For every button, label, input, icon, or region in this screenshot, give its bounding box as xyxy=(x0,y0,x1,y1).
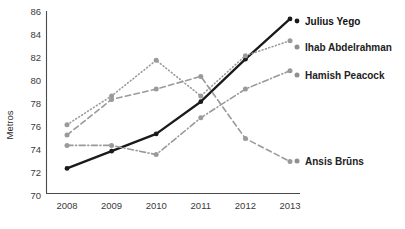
data-point xyxy=(288,159,293,164)
legend-label: Ihab Abdelrahman xyxy=(305,42,392,53)
data-series-group xyxy=(65,17,293,171)
data-point xyxy=(288,17,293,22)
data-point xyxy=(243,136,248,141)
y-axis-title: Metros xyxy=(4,110,15,139)
chart-canvas: Metros 868482807876747270 20082009201020… xyxy=(0,0,405,229)
data-point xyxy=(109,143,114,148)
series-hamish-peacock xyxy=(65,68,293,157)
y-tick-label: 80 xyxy=(30,75,41,86)
legend-marker-icon xyxy=(295,19,300,24)
x-tick-label: 2011 xyxy=(191,200,211,211)
legend-label: Hamish Peacock xyxy=(305,70,385,81)
y-axis-tick-labels: 868482807876747270 xyxy=(30,6,41,201)
legend-label: Ansis Brūns xyxy=(305,156,364,167)
data-point xyxy=(288,68,293,73)
data-point xyxy=(154,152,159,157)
y-tick-label: 74 xyxy=(30,144,41,155)
y-tick-label: 72 xyxy=(30,167,41,178)
legend-marker-icon xyxy=(295,45,300,50)
data-point xyxy=(65,122,70,127)
x-tick-label: 2012 xyxy=(235,200,256,211)
data-point xyxy=(243,87,248,92)
y-tick-label: 76 xyxy=(30,121,41,132)
data-point xyxy=(65,166,70,171)
data-point xyxy=(288,38,293,43)
x-tick-label: 2009 xyxy=(101,200,122,211)
series-julius-yego xyxy=(65,17,293,171)
legend-item[interactable]: Ihab Abdelrahman xyxy=(295,42,392,53)
data-point xyxy=(154,132,159,137)
line-chart: Metros 868482807876747270 20082009201020… xyxy=(0,0,405,229)
data-point xyxy=(154,58,159,63)
legend-label: Julius Yego xyxy=(305,16,360,27)
y-tick-label: 84 xyxy=(30,29,41,40)
data-point xyxy=(65,143,70,148)
legend-item[interactable]: Julius Yego xyxy=(295,16,361,27)
x-tick-label: 2008 xyxy=(56,200,77,211)
chart-legend: Julius YegoIhab AbdelrahmanHamish Peacoc… xyxy=(295,16,392,167)
data-point xyxy=(198,93,203,98)
legend-marker-icon xyxy=(295,73,300,78)
x-tick-label: 2010 xyxy=(146,200,167,211)
y-tick-label: 86 xyxy=(30,6,41,17)
data-point xyxy=(198,74,203,79)
y-tick-label: 82 xyxy=(30,52,41,63)
data-point xyxy=(198,99,203,104)
legend-item[interactable]: Hamish Peacock xyxy=(295,70,385,81)
data-point xyxy=(198,115,203,120)
legend-marker-icon xyxy=(295,159,300,164)
data-point xyxy=(109,97,114,102)
data-point xyxy=(109,149,114,154)
data-point xyxy=(154,87,159,92)
data-point xyxy=(243,53,248,58)
x-tick-label: 2013 xyxy=(279,200,300,211)
x-axis-tick-labels: 200820092010201120122013 xyxy=(56,200,300,211)
legend-item[interactable]: Ansis Brūns xyxy=(295,156,365,167)
y-tick-label: 70 xyxy=(30,190,41,201)
y-tick-label: 78 xyxy=(30,98,41,109)
data-point xyxy=(65,133,70,138)
